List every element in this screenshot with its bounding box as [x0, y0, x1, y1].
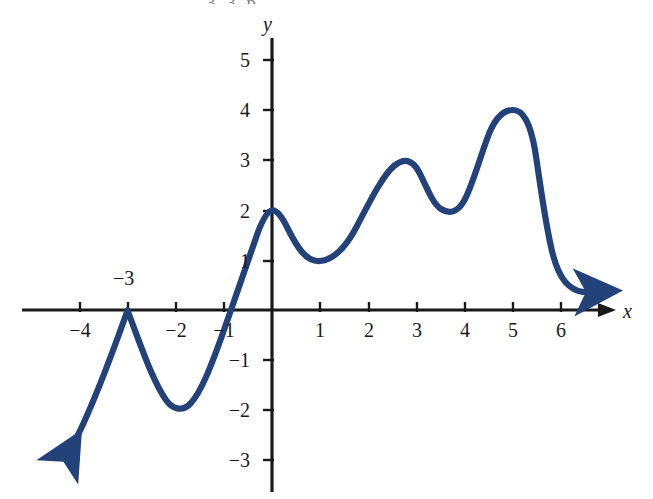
- y-tick-label-1: 1: [222, 251, 250, 271]
- x-tick-label-5: 5: [501, 320, 525, 340]
- x-tick-label-1: 1: [308, 320, 332, 340]
- y-tick-label--3: −3: [212, 450, 250, 470]
- annotation-corner-minus-3: −3: [113, 268, 134, 288]
- y-tick-label-5: 5: [222, 50, 250, 70]
- x-tick-label-3: 3: [405, 320, 429, 340]
- x-axis-label: x: [623, 301, 632, 321]
- y-tick-label-2: 2: [222, 201, 250, 221]
- x-tick-label--2: −2: [162, 320, 190, 340]
- y-tick-label-4: 4: [222, 100, 250, 120]
- y-tick-label-3: 3: [222, 150, 250, 170]
- x-tick-label-2: 2: [357, 320, 381, 340]
- y-tick-label--1: −1: [212, 350, 250, 370]
- y-tick-label--2: −2: [212, 400, 250, 420]
- x-tick-label--4: −4: [66, 320, 94, 340]
- graph-figure: 3 3 p: [0, 0, 653, 499]
- x-axis-arrowhead: [598, 303, 616, 317]
- y-axis-label: y: [263, 14, 272, 34]
- x-tick-label--1: −1: [210, 320, 238, 340]
- function-curve: [69, 110, 597, 452]
- x-tick-label-6: 6: [549, 320, 573, 340]
- x-tick-label-4: 4: [453, 320, 477, 340]
- function-graph-svg: [0, 0, 653, 499]
